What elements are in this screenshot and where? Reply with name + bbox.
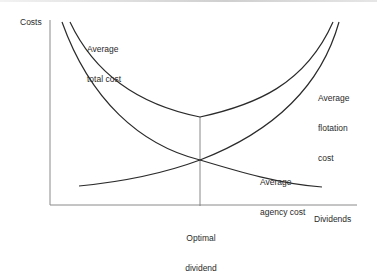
total-cost-label: Average total cost bbox=[87, 24, 121, 94]
y-axis-label: Costs bbox=[20, 17, 42, 27]
x-axis-label: Dividends bbox=[314, 214, 351, 224]
flotation-cost-label-line3: cost bbox=[318, 153, 350, 163]
optimal-dividend-label-line1: Optimal bbox=[178, 233, 224, 243]
optimal-dividend-label-line2: dividend bbox=[178, 263, 224, 273]
flotation-cost-label-line1: Average bbox=[318, 93, 350, 103]
flotation-cost-label-line2: flotation bbox=[318, 123, 350, 133]
agency-cost-label-line2: agency cost bbox=[260, 207, 305, 217]
agency-cost-label: Average agency cost bbox=[260, 157, 305, 227]
optimal-dividend-label: Optimal dividend bbox=[178, 213, 224, 275]
total-cost-label-line2: total cost bbox=[87, 74, 121, 84]
agency-cost-label-line1: Average bbox=[260, 177, 305, 187]
total-cost-label-line1: Average bbox=[87, 44, 121, 54]
flotation-cost-label: Average flotation cost bbox=[318, 73, 350, 173]
